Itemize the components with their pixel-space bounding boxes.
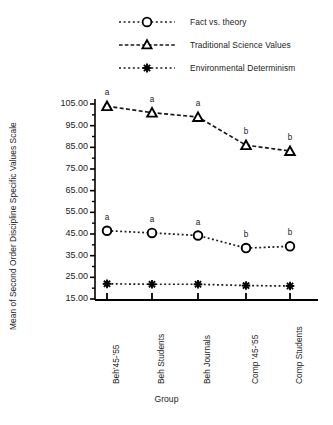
data-point-circle [103, 226, 112, 235]
y-axis-tick-label: 95.00 [40, 120, 88, 130]
y-axis-tick-label: 25.00 [40, 271, 88, 281]
series-circle [103, 226, 295, 252]
data-point-circle [194, 231, 203, 240]
data-point-asterisk [242, 281, 251, 290]
chart-container: Fact vs. theory Traditional Science Valu… [0, 0, 333, 425]
y-axis-tick-label: 65.00 [40, 185, 88, 195]
data-point-asterisk [148, 280, 157, 289]
data-point-annotation: a [145, 215, 159, 224]
x-axis-tick-label: Beh'45-'55 [111, 344, 121, 384]
data-point-annotation: a [191, 218, 205, 227]
data-point-triangle [102, 102, 112, 111]
y-axis-tick-label: 75.00 [40, 163, 88, 173]
x-axis-tick-label: Beh Journals [202, 335, 212, 384]
data-point-triangle [147, 108, 157, 117]
data-point-annotation: a [100, 88, 114, 97]
data-point-asterisk [286, 282, 295, 291]
x-axis-tick-label: Comp '45-'55 [250, 335, 260, 384]
x-axis-title: Group [0, 394, 333, 404]
data-point-triangle [241, 141, 251, 150]
series-asterisk [103, 280, 295, 291]
series-triangle [102, 102, 295, 155]
y-axis-tick-label: 55.00 [40, 206, 88, 216]
y-axis-tick-label: 35.00 [40, 250, 88, 260]
y-axis-tick-label: 45.00 [40, 228, 88, 238]
data-point-asterisk [103, 280, 112, 289]
data-point-annotation: b [283, 228, 297, 237]
data-point-annotation: a [191, 99, 205, 108]
data-point-annotation: a [145, 95, 159, 104]
x-axis-tick-label: Beh Students [156, 334, 166, 384]
y-axis-tick-label: 105.00 [40, 98, 88, 108]
data-point-annotation: b [239, 230, 253, 239]
data-point-triangle [285, 146, 295, 155]
data-point-annotation: b [283, 133, 297, 142]
y-axis-tick-label: 85.00 [40, 141, 88, 151]
y-axis-tick-label: 15.00 [40, 293, 88, 303]
data-point-asterisk [194, 280, 203, 289]
data-point-circle [242, 244, 251, 253]
data-point-annotation: a [100, 213, 114, 222]
data-point-triangle [193, 112, 203, 121]
x-axis-tick-label: Comp Students [294, 326, 304, 384]
data-point-circle [148, 229, 157, 238]
data-point-circle [286, 242, 295, 251]
data-point-annotation: b [239, 127, 253, 136]
